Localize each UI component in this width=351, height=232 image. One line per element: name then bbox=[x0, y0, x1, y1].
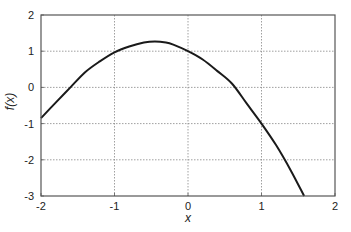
data-line-f-x bbox=[41, 41, 304, 196]
y-axis-label: f(x) bbox=[3, 93, 17, 110]
line-chart: -2-1012 -3-2-1012 x f(x) bbox=[0, 0, 351, 232]
y-tick-label: -2 bbox=[24, 154, 34, 166]
x-tick-label: -2 bbox=[36, 200, 46, 212]
y-tick-label: 0 bbox=[28, 81, 34, 93]
x-tick-label: 1 bbox=[258, 200, 264, 212]
x-axis-label: x bbox=[184, 211, 192, 225]
y-tick-label: 1 bbox=[28, 45, 34, 57]
y-tick-label: -1 bbox=[24, 118, 34, 130]
x-tick-label: 2 bbox=[332, 200, 338, 212]
y-tick-label: 2 bbox=[28, 9, 34, 21]
y-tick-label: -3 bbox=[24, 190, 34, 202]
x-tick-label: -1 bbox=[110, 200, 120, 212]
